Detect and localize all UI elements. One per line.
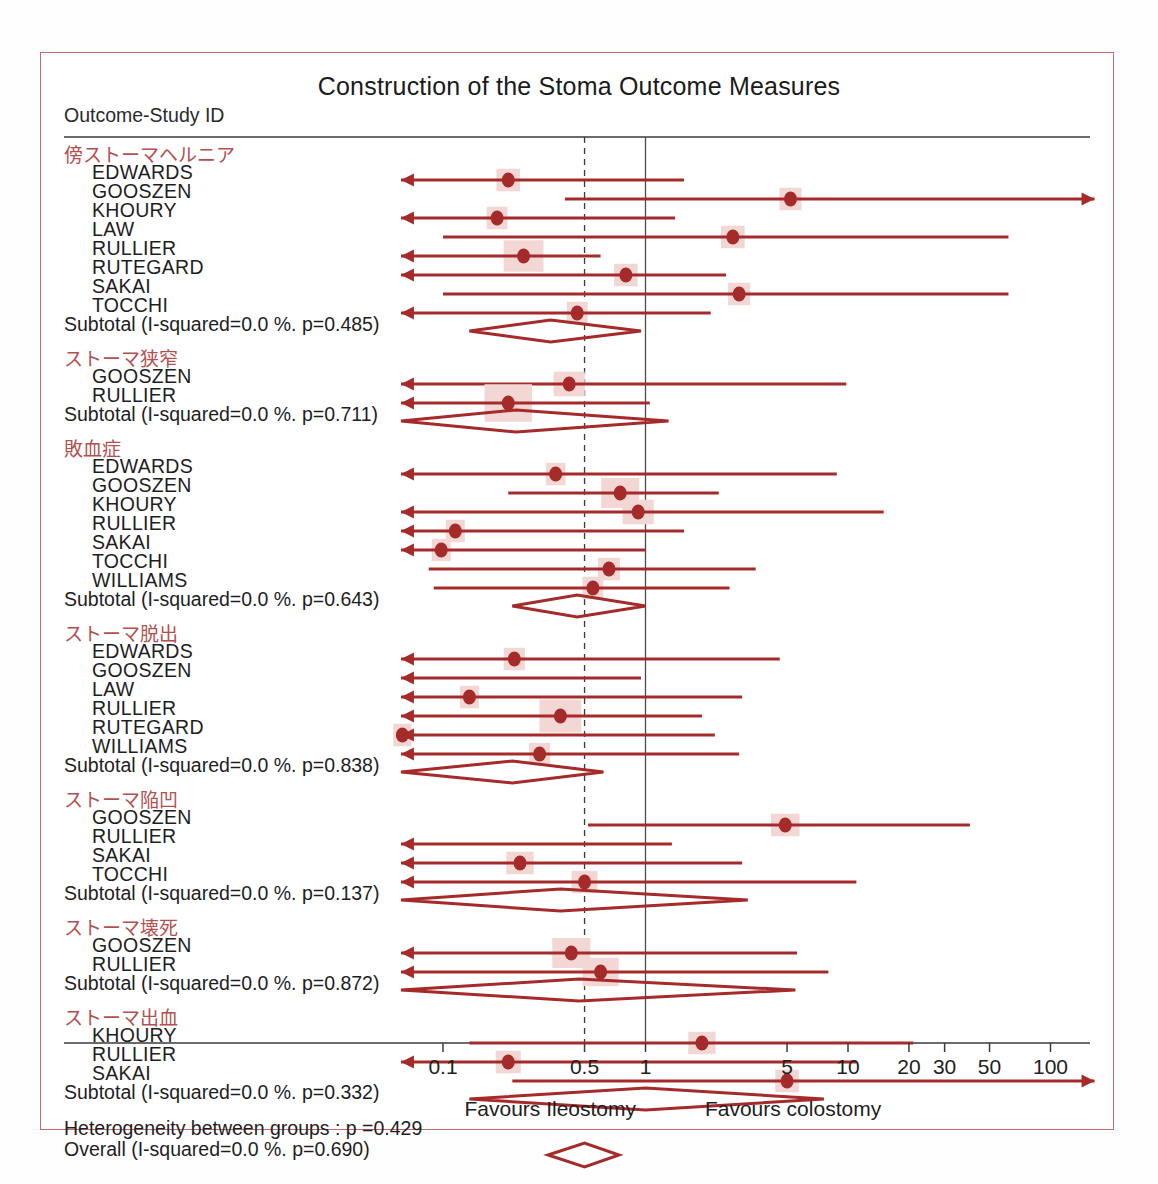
summary-diamond bbox=[548, 1143, 619, 1167]
study-point-estimate bbox=[695, 1036, 708, 1051]
favours-right-label: Favours colostomy bbox=[705, 1097, 881, 1121]
study-point-estimate bbox=[549, 467, 562, 482]
confidence-interval-arrow bbox=[401, 174, 414, 187]
study-point-estimate bbox=[502, 1055, 515, 1070]
study-point-estimate bbox=[571, 306, 584, 321]
study-point-estimate bbox=[602, 562, 615, 577]
study-point-estimate bbox=[554, 709, 567, 724]
confidence-interval-arrow bbox=[401, 307, 414, 320]
axis-tick-label-8: 100 bbox=[1033, 1055, 1068, 1079]
study-point-estimate bbox=[517, 249, 530, 264]
axis-tick-label-7: 50 bbox=[978, 1055, 1001, 1079]
summary-diamond bbox=[512, 595, 645, 617]
study-point-estimate bbox=[491, 211, 504, 226]
axis-tick-label-6: 30 bbox=[933, 1055, 956, 1079]
study-point-estimate bbox=[463, 690, 476, 705]
confidence-interval-arrow bbox=[401, 672, 414, 685]
study-point-estimate bbox=[396, 728, 409, 743]
study-point-estimate bbox=[779, 818, 792, 833]
study-point-estimate bbox=[614, 486, 627, 501]
confidence-interval-arrow bbox=[401, 525, 414, 538]
confidence-interval-arrow bbox=[401, 857, 414, 870]
study-point-estimate bbox=[449, 524, 462, 539]
study-point-estimate bbox=[632, 505, 645, 520]
subtotal-label-0: Subtotal (I-squared=0.0 %. p=0.485) bbox=[64, 313, 379, 336]
axis-tick-label-0: 0.1 bbox=[428, 1055, 457, 1079]
axis-tick-label-4: 10 bbox=[836, 1055, 859, 1079]
subtotal-label-6: Subtotal (I-squared=0.0 %. p=0.332) bbox=[64, 1081, 379, 1104]
confidence-interval-arrow bbox=[401, 748, 414, 761]
confidence-interval-arrow bbox=[401, 966, 414, 979]
subtotal-label-4: Subtotal (I-squared=0.0 %. p=0.137) bbox=[64, 882, 379, 905]
study-point-estimate bbox=[733, 287, 746, 302]
study-point-estimate bbox=[784, 192, 797, 207]
subtotal-label-5: Subtotal (I-squared=0.0 %. p=0.872) bbox=[64, 972, 379, 995]
study-point-estimate bbox=[565, 946, 578, 961]
confidence-interval-arrow bbox=[401, 947, 414, 960]
study-point-estimate bbox=[594, 965, 607, 980]
confidence-interval-arrow bbox=[401, 397, 414, 410]
forest-plot-figure: Construction of the Stoma Outcome Measur… bbox=[0, 0, 1158, 1184]
study-point-estimate bbox=[502, 396, 515, 411]
confidence-interval-arrow bbox=[401, 269, 414, 282]
confidence-interval-arrow bbox=[401, 378, 414, 391]
axis-tick-label-1: 0.5 bbox=[570, 1055, 599, 1079]
confidence-interval-arrow bbox=[401, 250, 414, 263]
study-point-estimate bbox=[563, 377, 576, 392]
confidence-interval-arrow bbox=[401, 876, 414, 889]
subtotal-label-3: Subtotal (I-squared=0.0 %. p=0.838) bbox=[64, 754, 379, 777]
study-point-estimate bbox=[513, 856, 526, 871]
confidence-interval-arrow bbox=[401, 691, 414, 704]
confidence-interval-arrow bbox=[401, 653, 414, 666]
summary-diamond bbox=[401, 410, 669, 432]
confidence-interval-arrow bbox=[401, 710, 414, 723]
axis-tick-label-2: 1 bbox=[640, 1055, 652, 1079]
confidence-interval-arrow bbox=[1082, 193, 1095, 206]
subtotal-label-1: Subtotal (I-squared=0.0 %. p=0.711) bbox=[64, 403, 378, 426]
confidence-interval-arrow bbox=[401, 1056, 414, 1069]
study-point-estimate bbox=[502, 173, 515, 188]
axis-tick-label-3: 5 bbox=[781, 1055, 793, 1079]
study-point-estimate bbox=[586, 581, 599, 596]
confidence-interval-arrow bbox=[1082, 1075, 1095, 1088]
axis-tick-label-5: 20 bbox=[897, 1055, 920, 1079]
confidence-interval-arrow bbox=[401, 212, 414, 225]
study-point-estimate bbox=[578, 875, 591, 890]
overall-label: Overall (I-squared=0.0 %. p=0.690) bbox=[64, 1138, 370, 1161]
study-point-estimate bbox=[619, 268, 632, 283]
study-point-estimate bbox=[435, 543, 448, 558]
study-point-estimate bbox=[533, 747, 546, 762]
confidence-interval-arrow bbox=[401, 468, 414, 481]
confidence-interval-arrow bbox=[401, 838, 414, 851]
summary-diamond bbox=[401, 761, 603, 783]
study-point-estimate bbox=[508, 652, 521, 667]
heterogeneity-note: Heterogeneity between groups : p =0.429 bbox=[64, 1117, 422, 1140]
confidence-interval-arrow bbox=[401, 544, 414, 557]
summary-diamond bbox=[469, 320, 641, 342]
confidence-interval-arrow bbox=[401, 506, 414, 519]
study-point-estimate bbox=[726, 230, 739, 245]
favours-left-label: Favours Ileostomy bbox=[464, 1097, 636, 1121]
subtotal-label-2: Subtotal (I-squared=0.0 %. p=0.643) bbox=[64, 588, 379, 611]
